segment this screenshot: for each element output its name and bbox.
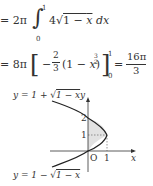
x-tick-1: 1 (104, 153, 110, 163)
x-axis-label: x (131, 153, 136, 163)
origin-label: O (90, 153, 97, 163)
y-axis-label: y (80, 90, 85, 100)
y-axis-arrow-icon (86, 97, 90, 102)
lower-curve-label: y = 1 − √1 − x (13, 170, 80, 180)
upper-curve-label: y = 1 + √1 − x (13, 90, 80, 100)
y-tick-2: 2 (81, 113, 87, 123)
y-tick-1: 1 (81, 130, 87, 140)
